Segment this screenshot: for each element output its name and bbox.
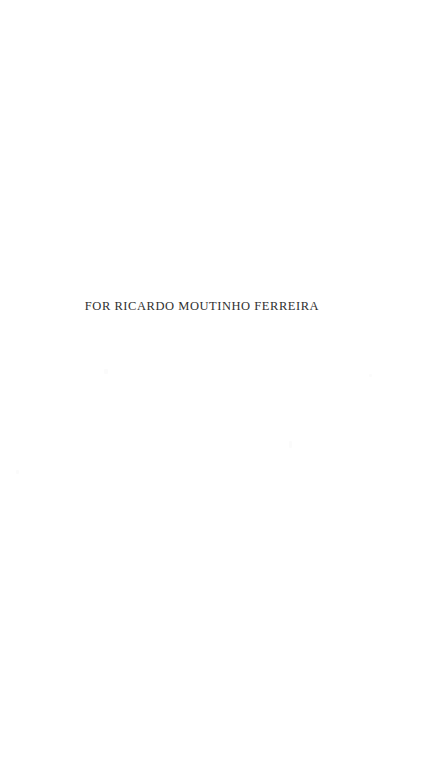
scan-artifact-speck — [16, 470, 19, 474]
scan-artifact-speck — [104, 369, 108, 374]
scanned-book-page: FOR RICARDO MOUTINHO FERREIRA — [0, 0, 432, 768]
dedication-text: FOR RICARDO MOUTINHO FERREIRA — [85, 299, 319, 314]
scan-artifact-speck — [369, 374, 372, 377]
dedication-block: FOR RICARDO MOUTINHO FERREIRA — [0, 296, 404, 314]
scan-artifact-speck — [289, 441, 292, 448]
